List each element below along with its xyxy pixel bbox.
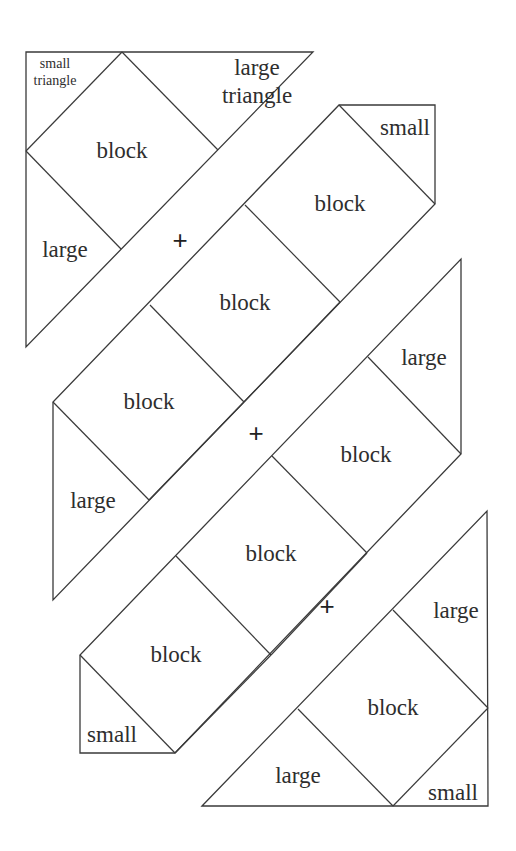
diagram-canvas: smalltrianglelargetriangleblocklargesmal… xyxy=(0,0,516,851)
piece-label: large xyxy=(70,488,116,513)
piece-label: block xyxy=(340,442,392,467)
piece-label: block xyxy=(150,642,202,667)
piece-label: block xyxy=(367,695,419,720)
piece-label: block xyxy=(123,389,175,414)
plus-icon: + xyxy=(248,418,263,448)
piece-label: block xyxy=(219,290,271,315)
quilt-assembly-diagram: smalltrianglelargetriangleblocklargesmal… xyxy=(0,0,516,851)
piece-label: large xyxy=(433,598,479,623)
plus-icon: + xyxy=(172,225,187,255)
piece-label: block xyxy=(245,541,297,566)
piece-label: small xyxy=(428,780,478,805)
piece-label: small xyxy=(87,722,137,747)
piece-label: large xyxy=(275,763,321,788)
piece-label: small xyxy=(380,115,430,140)
piece-label: large xyxy=(401,345,447,370)
piece-label: small xyxy=(40,56,70,71)
plus-icon: + xyxy=(319,591,334,621)
piece-label: triangle xyxy=(222,83,292,108)
piece-label: block xyxy=(96,138,148,163)
piece-label: block xyxy=(314,191,366,216)
piece-label: large xyxy=(42,237,88,262)
piece-label: triangle xyxy=(34,73,77,88)
piece-label: large xyxy=(234,55,280,80)
